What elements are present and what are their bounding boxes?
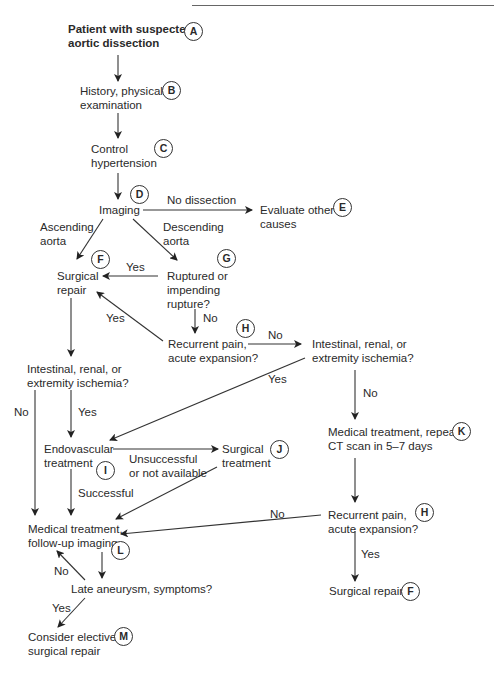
label-unsuccessful: Unsuccessful or not available (129, 452, 207, 480)
node-isc2-line1: Intestinal, renal, or (312, 337, 414, 351)
label-descending-line1: Descending (163, 220, 224, 234)
badge-m: M (114, 627, 133, 646)
badge-f2: F (401, 582, 420, 601)
badge-h2: H (415, 503, 434, 522)
badge-g: G (217, 249, 236, 268)
node-ischemia-left: Intestinal, renal, or extremity ischemia… (27, 362, 129, 390)
node-d-line1: Imaging (99, 203, 140, 217)
badge-c: C (154, 139, 173, 158)
badge-b: B (162, 81, 181, 100)
label-descending: Descending aorta (163, 220, 224, 248)
node-g-line3: rupture? (167, 297, 228, 311)
node-isc1-line1: Intestinal, renal, or (27, 362, 129, 376)
node-a-line2: aortic dissection (68, 36, 193, 50)
label-ascending-line2: aorta (40, 234, 94, 248)
node-b-line1: History, physical (80, 84, 163, 98)
label-isc2-no: No (363, 386, 378, 400)
node-i-line1: Endovascular (44, 442, 114, 456)
node-j: Surgical treatment (222, 442, 271, 470)
badge-h1: H (236, 319, 255, 338)
node-m-line1: Consider elective (28, 630, 116, 644)
node-ischemia-right: Intestinal, renal, or extremity ischemia… (312, 337, 414, 365)
node-k-line2: CT scan in 5–7 days (328, 439, 458, 453)
node-f-surgical-repair-2: Surgical repair (329, 584, 403, 598)
edge-h2-l (121, 515, 321, 534)
node-e-line2: causes (260, 217, 334, 231)
node-late-aneurysm: Late aneurysm, symptoms? (71, 582, 212, 596)
badge-f: F (91, 250, 110, 269)
label-descending-line2: aorta (163, 234, 224, 248)
node-l-line1: Medical treatment, (28, 522, 123, 536)
node-m: Consider elective surgical repair (28, 630, 116, 658)
node-f-line2: repair (57, 283, 99, 297)
node-b-line2: examination (80, 98, 163, 112)
node-h2-line2: acute expansion? (328, 522, 418, 536)
badge-j: J (270, 440, 289, 459)
label-unsuccessful-line2: or not available (129, 466, 207, 480)
label-g-no: No (203, 311, 218, 325)
node-la-line1: Late aneurysm, symptoms? (71, 582, 212, 596)
node-h2-line1: Recurrent pain, (328, 508, 418, 522)
label-ascending-line1: Ascending (40, 220, 94, 234)
node-f-line1: Surgical (57, 269, 99, 283)
label-ascending: Ascending aorta (40, 220, 94, 248)
node-c-line2: hypertension (91, 156, 157, 170)
node-j-line2: treatment (222, 456, 271, 470)
node-a: Patient with suspected aortic dissection (68, 22, 193, 50)
node-isc1-line2: extremity ischemia? (27, 376, 129, 390)
label-no-dissection: No dissection (167, 193, 236, 207)
badge-d: D (130, 185, 149, 204)
label-h1-no: No (268, 328, 283, 342)
label-successful: Successful (78, 486, 134, 500)
label-g-yes: Yes (126, 260, 145, 274)
node-d: Imaging (99, 203, 140, 217)
node-m-line2: surgical repair (28, 644, 116, 658)
node-e: Evaluate other causes (260, 203, 334, 231)
badge-a: A (184, 22, 203, 41)
label-la-no: No (54, 564, 69, 578)
flowchart-canvas: Patient with suspected aortic dissection… (0, 0, 494, 678)
node-g-line2: impending (167, 283, 228, 297)
node-g: Ruptured or impending rupture? (167, 269, 228, 311)
node-c-line1: Control (91, 142, 157, 156)
label-isc2-yes: Yes (268, 372, 287, 386)
node-k-line1: Medical treatment, repeat (328, 425, 458, 439)
node-g-line1: Ruptured or (167, 269, 228, 283)
node-h1-line2: acute expansion? (168, 351, 258, 365)
node-isc2-line2: extremity ischemia? (312, 351, 414, 365)
label-isc1-no: No (14, 405, 29, 419)
node-l-line2: follow-up imaging (28, 536, 123, 550)
edge-isc2-i (110, 358, 305, 440)
node-b: History, physical examination (80, 84, 163, 112)
badge-e: E (333, 198, 352, 217)
node-a-line1: Patient with suspected (68, 22, 193, 36)
label-la-yes: Yes (52, 601, 71, 615)
label-isc1-yes: Yes (78, 405, 97, 419)
badge-k: K (452, 422, 471, 441)
node-e-line1: Evaluate other (260, 203, 334, 217)
node-f-surgical-repair: Surgical repair (57, 269, 99, 297)
node-h2: Recurrent pain, acute expansion? (328, 508, 418, 536)
node-h1-line1: Recurrent pain, (168, 337, 258, 351)
node-j-line1: Surgical (222, 442, 271, 456)
badge-l: L (111, 541, 130, 560)
node-h1: Recurrent pain, acute expansion? (168, 337, 258, 365)
node-l: Medical treatment, follow-up imaging (28, 522, 123, 550)
node-k: Medical treatment, repeat CT scan in 5–7… (328, 425, 458, 453)
label-h2-no: No (270, 507, 285, 521)
label-unsuccessful-line1: Unsuccessful (129, 452, 207, 466)
node-c: Control hypertension (91, 142, 157, 170)
label-h2-yes: Yes (361, 547, 380, 561)
badge-i: I (96, 461, 115, 480)
label-h1-yes: Yes (106, 311, 125, 325)
node-f2-line1: Surgical repair (329, 584, 403, 598)
